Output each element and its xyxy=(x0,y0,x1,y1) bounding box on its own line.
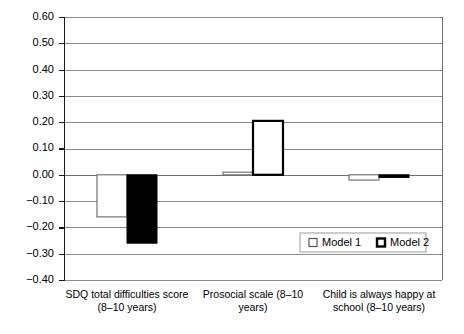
legend-swatch-2 xyxy=(377,239,385,247)
y-axis-tick-label: −0.30 xyxy=(26,247,54,259)
bar-model2 xyxy=(379,175,409,178)
bar-chart: 0.600.500.400.300.200.100.00−0.10−0.20−0… xyxy=(0,0,464,334)
bar-model2 xyxy=(127,175,157,243)
y-axis-tick-label: 0.40 xyxy=(33,63,54,75)
legend-swatch-1 xyxy=(309,239,317,247)
bar-model1 xyxy=(223,172,253,175)
y-axis-tick-label: −0.40 xyxy=(26,273,54,285)
bar-model2 xyxy=(253,121,283,175)
y-axis-tick-label: 0.10 xyxy=(33,141,54,153)
y-axis-tick-label: 0.50 xyxy=(33,36,54,48)
x-axis-category-label: Child is always happy at xyxy=(323,288,436,300)
legend-label-1: Model 1 xyxy=(322,236,361,248)
y-axis-tick-label: −0.10 xyxy=(26,194,54,206)
x-axis-category-label: (8–10 years) xyxy=(98,301,157,313)
y-axis-tick-label: 0.60 xyxy=(33,10,54,22)
legend-label-2: Model 2 xyxy=(390,236,429,248)
y-axis-tick-label: 0.20 xyxy=(33,115,54,127)
y-axis-tick-label: 0.30 xyxy=(33,89,54,101)
bar-series-group xyxy=(97,121,409,243)
x-axis-category-label: years) xyxy=(238,301,267,313)
y-axis-tick-label: −0.20 xyxy=(26,220,54,232)
y-axis xyxy=(59,17,65,281)
chart-container: 0.600.500.400.300.200.100.00−0.10−0.20−0… xyxy=(0,0,464,334)
bar-model1 xyxy=(349,175,379,180)
y-axis-tick-label: 0.00 xyxy=(33,168,54,180)
x-axis-category-label: SDQ total difficulties score xyxy=(66,288,189,300)
chart-legend: Model 1Model 2 xyxy=(300,233,429,252)
bar-model1 xyxy=(97,175,127,217)
y-axis-tick-labels: 0.600.500.400.300.200.100.00−0.10−0.20−0… xyxy=(26,10,54,285)
x-axis-category-label: school (8–10 years) xyxy=(333,301,425,313)
x-axis-category-label: Prosocial scale (8–10 xyxy=(203,288,304,300)
x-axis-category-labels: SDQ total difficulties score(8–10 years)… xyxy=(66,288,436,313)
